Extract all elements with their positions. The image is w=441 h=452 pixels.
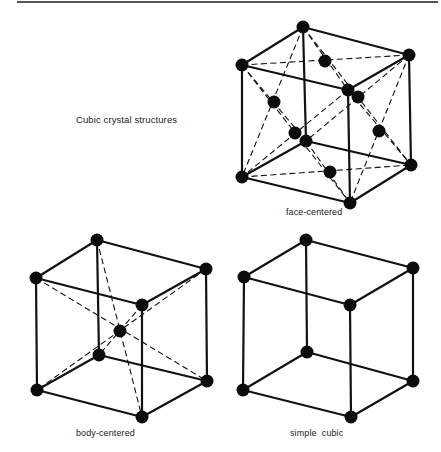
cube-edge (242, 141, 306, 177)
cube-edge (142, 269, 206, 305)
cube-edge (306, 240, 307, 352)
body-center-atom (114, 325, 127, 338)
cube-edge (306, 141, 411, 165)
cube-edge (306, 240, 413, 268)
corner-atom (300, 135, 313, 148)
body-centered-cube (30, 234, 214, 424)
corner-atom (407, 262, 420, 275)
cube-edge (97, 240, 206, 269)
corner-atom (237, 384, 250, 397)
corner-atom (238, 271, 251, 284)
cube-edge (350, 165, 411, 203)
corner-atom (201, 375, 214, 388)
cube-edge (97, 240, 99, 355)
corner-atom (136, 411, 149, 424)
corner-atom (236, 59, 249, 72)
corner-atom (30, 272, 43, 285)
simple-cubic-label: simple cubic (290, 428, 343, 438)
crystal-diagram (0, 0, 441, 452)
cube-edge (243, 277, 244, 390)
cube-edge (244, 277, 350, 305)
face-center-atom (352, 91, 365, 104)
cube-edge (99, 355, 207, 381)
corner-atom (200, 263, 213, 276)
cube-edge (36, 278, 142, 305)
face-centered-cube (236, 21, 418, 210)
cube-edge (303, 27, 409, 55)
corner-atom (405, 159, 418, 172)
corner-atom (31, 384, 44, 397)
diagram-title: Cubic crystal structures (76, 114, 177, 125)
corner-atom (344, 299, 357, 312)
cube-edge (350, 305, 351, 417)
face-center-atom (289, 127, 302, 140)
corner-atom (345, 411, 358, 424)
cube-edge (303, 27, 306, 141)
cube-edge (409, 55, 411, 165)
cube-edge (348, 90, 350, 203)
corner-atom (301, 346, 314, 359)
face-centered-label: face-centered (286, 207, 342, 217)
corner-atom (344, 197, 357, 210)
corner-atom (403, 49, 416, 62)
cube-edge (206, 269, 207, 381)
corner-atom (91, 234, 104, 247)
cube-edge (244, 240, 306, 277)
cube-edge (307, 352, 413, 381)
cube-edge (242, 65, 348, 90)
body-centered-label: body-centered (76, 428, 135, 438)
corner-atom (93, 349, 106, 362)
cube-edge (242, 27, 303, 65)
cube-edge (348, 55, 409, 90)
cube-edge (36, 240, 97, 278)
face-center-atom (268, 96, 281, 109)
cube-edge (37, 355, 99, 390)
cube-edge (37, 390, 142, 417)
cube-edge (142, 381, 207, 417)
corner-atom (407, 375, 420, 388)
cube-edge (351, 381, 413, 417)
face-center-atom (324, 166, 337, 179)
face-center-atom (373, 125, 386, 138)
cube-edge (36, 278, 37, 390)
corner-atom (300, 234, 313, 247)
cube-edge (243, 390, 351, 417)
face-center-atom (319, 55, 332, 68)
corner-atom (297, 21, 310, 34)
cube-edge (350, 268, 413, 305)
simple-cubic-cube (237, 234, 420, 424)
corner-atom (136, 299, 149, 312)
corner-atom (236, 171, 249, 184)
cube-edge (243, 352, 307, 390)
